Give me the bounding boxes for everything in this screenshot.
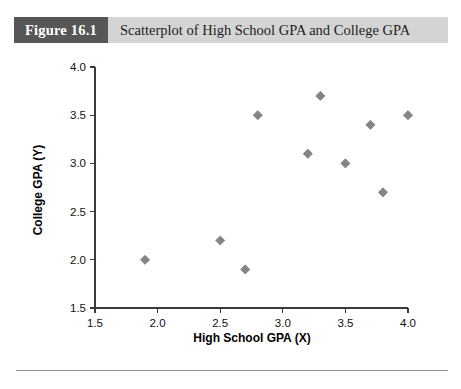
data-points xyxy=(140,91,412,274)
x-tick-label: 1.5 xyxy=(87,317,103,329)
y-tick-label: 2.0 xyxy=(70,254,86,266)
bottom-divider xyxy=(16,370,448,371)
data-point-marker xyxy=(140,255,149,264)
y-tick-label: 3.5 xyxy=(70,109,86,121)
data-point-marker xyxy=(316,91,325,100)
x-tick-label: 3.5 xyxy=(337,317,353,329)
data-point-marker xyxy=(378,188,387,197)
x-axis-title: High School GPA (X) xyxy=(193,331,310,345)
data-point-marker xyxy=(216,236,225,245)
data-point-marker xyxy=(403,111,412,120)
axes xyxy=(95,67,408,308)
y-tick-label: 3.0 xyxy=(70,157,86,169)
y-tick-label: 2.5 xyxy=(70,206,86,218)
y-axis-title: College GPA (Y) xyxy=(31,145,45,236)
x-tick-label: 3.0 xyxy=(275,317,291,329)
figure-number-label: Figure 16.1 xyxy=(14,17,108,43)
data-point-marker xyxy=(303,149,312,158)
x-tick-label: 2.5 xyxy=(212,317,228,329)
figure-title: Scatterplot of High School GPA and Colle… xyxy=(108,17,410,43)
y-tick-label: 1.5 xyxy=(70,302,86,314)
data-point-marker xyxy=(253,111,262,120)
figure-header: Figure 16.1 Scatterplot of High School G… xyxy=(14,17,448,43)
axis-ticks xyxy=(90,67,408,313)
scatterplot: 1.52.02.53.03.54.0 1.52.02.53.03.54.0 Hi… xyxy=(0,50,461,350)
x-tick-labels: 1.52.02.53.03.54.0 xyxy=(87,317,416,329)
data-point-marker xyxy=(366,120,375,129)
x-tick-label: 4.0 xyxy=(400,317,416,329)
data-point-marker xyxy=(241,265,250,274)
y-tick-labels: 1.52.02.53.03.54.0 xyxy=(70,61,86,314)
x-tick-label: 2.0 xyxy=(150,317,166,329)
scatterplot-canvas: 1.52.02.53.03.54.0 1.52.02.53.03.54.0 Hi… xyxy=(0,50,461,350)
data-point-marker xyxy=(341,159,350,168)
y-tick-label: 4.0 xyxy=(70,61,86,73)
